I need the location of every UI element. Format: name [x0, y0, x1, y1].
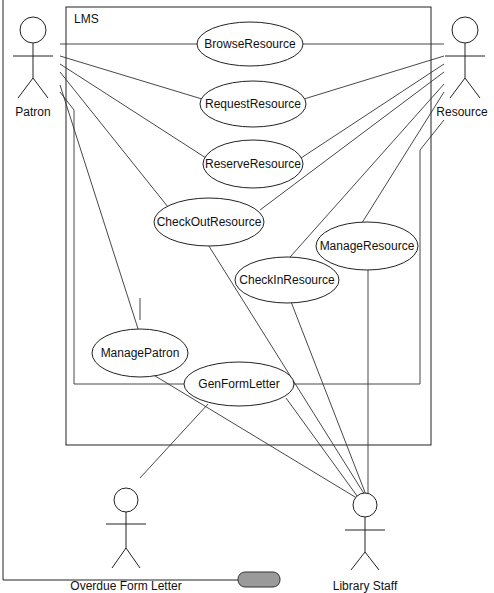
- svg-text:Resource: Resource: [436, 105, 488, 119]
- actor-overdue-form-letter[interactable]: Overdue Form Letter: [70, 488, 181, 593]
- system-boundary-label: LMS: [74, 12, 99, 26]
- use-case-manageres[interactable]: ManageResource: [316, 222, 418, 270]
- actor-resource[interactable]: Resource: [436, 17, 488, 119]
- actor-library-staff[interactable]: Library Staff: [333, 493, 398, 593]
- stick-figure-icon: [445, 17, 485, 98]
- assoc-patron-checkout: [60, 72, 172, 212]
- stick-figure-icon: [106, 488, 146, 568]
- use-case-managepatron[interactable]: ManagePatron: [92, 329, 188, 377]
- svg-text:CheckOutResource: CheckOutResource: [157, 215, 262, 229]
- svg-text:ManageResource: ManageResource: [320, 239, 415, 253]
- svg-text:Overdue Form Letter: Overdue Form Letter: [70, 579, 181, 593]
- svg-text:CheckInResource: CheckInResource: [239, 273, 335, 287]
- actor-patron[interactable]: Patron: [13, 17, 53, 119]
- svg-text:GenFormLetter: GenFormLetter: [198, 377, 279, 391]
- assoc-overdue-genform: [140, 404, 208, 478]
- assoc-patron-managepatron: [60, 85, 148, 360]
- use-case-checkout[interactable]: CheckOutResource: [154, 198, 264, 246]
- page-tab-handle[interactable]: [238, 572, 280, 587]
- stick-figure-icon: [13, 17, 53, 98]
- use-case-genform[interactable]: GenFormLetter: [184, 362, 294, 406]
- use-case-request[interactable]: RequestResource: [200, 81, 306, 127]
- svg-text:Library Staff: Library Staff: [333, 579, 398, 593]
- assoc-staff-checkin: [288, 294, 368, 500]
- svg-text:RequestResource: RequestResource: [205, 97, 301, 111]
- assoc-staff-genform: [286, 398, 360, 500]
- svg-text:ReserveResource: ReserveResource: [205, 157, 301, 171]
- use-case-diagram: LMS BrowseResource RequestResource: [0, 0, 494, 593]
- use-case-reserve[interactable]: ReserveResource: [203, 140, 303, 188]
- svg-text:Patron: Patron: [15, 105, 50, 119]
- use-case-checkin[interactable]: CheckInResource: [235, 257, 339, 303]
- stick-figure-icon: [345, 493, 385, 570]
- svg-text:BrowseResource: BrowseResource: [204, 37, 296, 51]
- use-case-browse[interactable]: BrowseResource: [197, 22, 303, 66]
- svg-text:ManagePatron: ManagePatron: [101, 346, 180, 360]
